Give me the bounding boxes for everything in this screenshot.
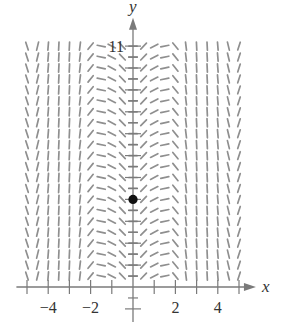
slope-segment xyxy=(108,274,115,278)
slope-segment xyxy=(217,184,218,192)
slope-segment xyxy=(141,120,147,126)
slope-segment xyxy=(186,228,187,236)
slope-segment xyxy=(173,229,178,235)
slope-segment xyxy=(141,251,147,257)
slope-segment xyxy=(151,274,158,278)
slope-segment xyxy=(88,65,93,71)
slope-segment xyxy=(26,86,29,94)
slope-segment xyxy=(186,195,187,203)
slope-segment xyxy=(151,44,158,48)
slope-segment xyxy=(173,131,178,137)
slope-segment xyxy=(48,108,49,116)
slope-segment xyxy=(141,109,147,115)
slope-segment xyxy=(238,86,241,94)
slope-segment xyxy=(108,99,115,103)
slope-segment xyxy=(97,122,105,124)
slope-segment xyxy=(48,152,49,160)
slope-segment xyxy=(80,53,81,61)
slope-segment xyxy=(227,239,229,247)
slope-segment xyxy=(227,86,229,94)
slope-segment xyxy=(108,110,115,114)
slope-segment xyxy=(80,272,81,280)
slope-segment xyxy=(141,175,147,181)
slope-segment xyxy=(161,122,169,124)
slope-segment xyxy=(26,272,29,280)
slope-segment xyxy=(48,239,49,247)
slope-segment xyxy=(217,119,218,127)
slope-segment xyxy=(161,45,169,47)
slope-segment xyxy=(186,217,187,225)
slope-segment xyxy=(151,99,158,103)
slope-segment xyxy=(97,155,105,157)
slope-segment xyxy=(238,174,241,182)
slope-segment xyxy=(97,45,105,47)
slope-segment xyxy=(108,77,115,81)
slope-segment xyxy=(161,253,169,255)
slope-segment xyxy=(173,218,178,224)
slope-segment xyxy=(151,187,158,191)
axes: −4−224 11 x y xyxy=(16,0,270,322)
slope-segment xyxy=(238,141,241,149)
slope-segment xyxy=(141,207,147,213)
slope-segment xyxy=(227,152,229,160)
slope-segment xyxy=(108,263,115,267)
slope-segment xyxy=(80,228,81,236)
slope-segment xyxy=(48,272,49,280)
slope-segment xyxy=(88,207,93,213)
slope-segment xyxy=(37,195,39,203)
slope-segment xyxy=(97,220,105,222)
slope-segment xyxy=(186,119,187,127)
slope-segment xyxy=(97,144,105,146)
slope-segment xyxy=(238,239,241,247)
slope-segment xyxy=(37,119,39,127)
slope-segment xyxy=(26,250,29,258)
slope-segment xyxy=(108,219,115,223)
slope-segment xyxy=(217,195,218,203)
slope-segment xyxy=(88,218,93,224)
slope-segment xyxy=(97,264,105,266)
slope-segment xyxy=(161,177,169,179)
slope-segment xyxy=(48,162,49,170)
slope-segment xyxy=(173,273,178,279)
slope-segment xyxy=(141,131,147,137)
slope-segment xyxy=(227,119,229,127)
slope-segment xyxy=(108,165,115,169)
slope-segment xyxy=(108,208,115,212)
slope-segment xyxy=(173,109,178,115)
slope-segment xyxy=(88,174,93,180)
slope-segment xyxy=(88,54,93,60)
slope-segment xyxy=(37,64,39,72)
slope-segment xyxy=(80,184,81,192)
slope-segment xyxy=(97,253,105,255)
x-tick-label: 2 xyxy=(171,299,179,316)
slope-segment xyxy=(186,152,187,160)
slope-field-plot: −4−224 11 x y xyxy=(0,0,293,333)
slope-segment xyxy=(217,97,218,105)
slope-segment xyxy=(238,119,241,127)
slope-segment xyxy=(120,196,126,202)
slope-segment xyxy=(227,64,229,72)
slope-segment xyxy=(37,53,39,61)
slope-segment xyxy=(37,239,39,247)
slope-segment xyxy=(227,261,229,269)
slope-segment xyxy=(120,262,126,268)
slope-segment xyxy=(173,54,178,60)
slope-segment xyxy=(217,162,218,170)
slope-segment xyxy=(48,261,49,269)
slope-segment xyxy=(120,207,126,213)
slope-segment xyxy=(151,55,158,59)
slope-segment xyxy=(161,155,169,157)
slope-segment xyxy=(26,108,29,116)
slope-segment xyxy=(141,43,147,49)
slope-segment xyxy=(227,217,229,225)
slope-segment xyxy=(120,164,126,170)
slope-segment xyxy=(48,250,49,258)
slope-segment xyxy=(141,240,147,246)
slope-segment xyxy=(37,217,39,225)
slope-segment xyxy=(238,130,241,138)
slope-segment xyxy=(173,262,178,268)
slope-segment xyxy=(151,208,158,212)
slope-segment xyxy=(108,176,115,180)
slope-segment xyxy=(217,64,218,72)
slope-segment xyxy=(227,174,229,182)
